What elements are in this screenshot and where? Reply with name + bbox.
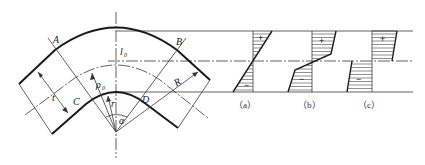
diagram-c-minus: − <box>356 74 361 84</box>
stress-diagram-c: + − （c） <box>347 31 397 110</box>
diagram-a-plus: + <box>258 33 263 43</box>
radial-line-a <box>48 38 116 132</box>
label-r: r <box>111 98 115 109</box>
t-arrow-bottom-icon <box>62 107 68 113</box>
label-R: R <box>171 76 183 89</box>
radial-line-r <box>116 72 198 132</box>
diagram-c-profile-top <box>392 31 397 61</box>
diagram-c-profile-bottom <box>347 61 352 92</box>
rho-arrow-icon <box>90 73 95 80</box>
diagram-b-caption: （b） <box>298 100 321 110</box>
label-rho0-sub: 0 <box>102 85 105 91</box>
label-t: t <box>52 92 55 103</box>
right-end <box>178 80 210 128</box>
bending-diagram: A B C D l 0 ρ 0 R r t α + − （a） + − （b） … <box>0 0 425 165</box>
label-B: B <box>176 36 182 47</box>
label-D: D <box>141 94 150 105</box>
label-l0: l <box>120 46 123 57</box>
left-end <box>19 84 52 134</box>
diagram-c-caption: （c） <box>358 100 380 110</box>
diagram-b-plus: + <box>319 36 324 46</box>
t-arrow-top-icon <box>38 72 43 78</box>
label-alpha: α <box>119 115 125 126</box>
label-rho0: ρ <box>95 79 101 90</box>
stress-diagram-a: + − （a） <box>233 31 272 110</box>
label-l0-sub: 0 <box>124 52 127 58</box>
diagram-c-plus: + <box>380 34 385 44</box>
label-A: A <box>52 34 60 45</box>
diagram-a-caption: （a） <box>234 100 256 110</box>
label-C: C <box>73 96 80 107</box>
diagram-b-minus: − <box>299 74 304 84</box>
stress-diagram-b: + − （b） <box>288 31 336 110</box>
diagram-a-minus: − <box>244 80 249 90</box>
R-arrow-icon <box>192 72 198 77</box>
